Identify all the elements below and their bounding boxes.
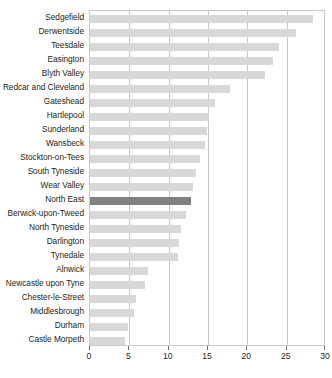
x-tick-mark (324, 346, 325, 350)
x-tick-label: 30 (320, 351, 330, 361)
bar (90, 71, 265, 79)
bar-row (90, 319, 324, 334)
bar (90, 281, 145, 289)
bar-row (90, 95, 324, 110)
category-label: Berwick-upon-Tweed (7, 206, 84, 221)
x-tick-label: 25 (281, 351, 291, 361)
category-label: North East (45, 192, 84, 207)
bar (90, 211, 186, 219)
bar (90, 239, 179, 247)
bar (90, 197, 191, 205)
bar-row (90, 39, 324, 54)
bar-row (90, 123, 324, 138)
category-label: Blyth Valley (42, 66, 84, 81)
bar-row (90, 263, 324, 278)
bar-row (90, 165, 324, 180)
bar-row (90, 109, 324, 124)
bar-row (90, 25, 324, 40)
category-label: Sedgefield (45, 10, 84, 25)
bar (90, 141, 205, 149)
bar-row (90, 291, 324, 306)
bar-row (90, 11, 324, 26)
bar (90, 183, 193, 191)
bar (90, 309, 134, 317)
bar-row (90, 207, 324, 222)
bar (90, 29, 296, 37)
bar (90, 267, 148, 275)
bar-row (90, 221, 324, 236)
bar (90, 295, 136, 303)
bar-row (90, 277, 324, 292)
category-label: Easington (48, 52, 84, 67)
category-label: Sunderland (42, 122, 84, 137)
x-tick-label: 0 (87, 351, 92, 361)
category-label: Middlesbrough (30, 304, 84, 319)
category-label: Wear Valley (41, 178, 84, 193)
bar (90, 99, 215, 107)
bar (90, 323, 128, 331)
x-tick-mark (89, 346, 90, 350)
bar (90, 169, 196, 177)
category-label: Teesdale (51, 38, 84, 53)
x-tick-mark (207, 346, 208, 350)
category-label: Newcastle upon Tyne (6, 276, 84, 291)
category-label: South Tyneside (28, 164, 84, 179)
x-axis: 051015202530 (89, 346, 325, 376)
bar-row (90, 235, 324, 250)
category-label: Durham (55, 318, 84, 333)
category-label: Chester-le-Street (22, 290, 84, 305)
bar-row (90, 333, 324, 346)
bar (90, 127, 207, 135)
x-tick-mark (246, 346, 247, 350)
bar-chart: SedgefieldDerwentsideTeesdaleEasingtonBl… (0, 0, 332, 378)
bar (90, 15, 313, 23)
category-label: North Tyneside (29, 220, 84, 235)
bar (90, 225, 181, 233)
x-tick-mark (286, 346, 287, 350)
category-label: Hartlepool (47, 108, 84, 123)
bar-row (90, 179, 324, 194)
bar (90, 253, 178, 261)
x-tick-mark (168, 346, 169, 350)
bar-row (90, 53, 324, 68)
bar (90, 155, 200, 163)
x-tick-label: 15 (202, 351, 212, 361)
bar-row (90, 151, 324, 166)
bar (90, 57, 273, 65)
category-label: Redcar and Cleveland (3, 80, 84, 95)
plot-area (89, 10, 325, 346)
x-tick-mark (128, 346, 129, 350)
bar (90, 113, 209, 121)
category-label: Stockton-on-Tees (20, 150, 84, 165)
category-label: Gateshead (44, 94, 84, 109)
category-label: Wansbeck (46, 136, 84, 151)
bar-row (90, 305, 324, 320)
x-tick-label: 10 (163, 351, 173, 361)
category-label: Alnwick (56, 262, 84, 277)
category-label: Castle Morpeth (28, 332, 84, 347)
category-label: Darlington (47, 234, 84, 249)
category-axis-labels: SedgefieldDerwentsideTeesdaleEasingtonBl… (0, 10, 87, 346)
bar (90, 43, 279, 51)
category-label: Tynedale (51, 248, 84, 263)
bar (90, 85, 230, 93)
x-tick-label: 20 (242, 351, 252, 361)
bar-row (90, 81, 324, 96)
bar-row (90, 249, 324, 264)
bar-row (90, 193, 324, 208)
category-label: Derwentside (38, 24, 84, 39)
bar-row (90, 67, 324, 82)
bar (90, 337, 125, 345)
x-tick-label: 5 (126, 351, 131, 361)
bar-row (90, 137, 324, 152)
